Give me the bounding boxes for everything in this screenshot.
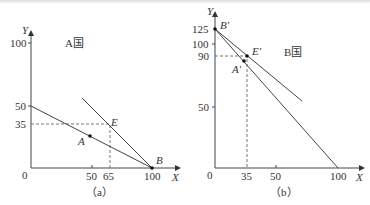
y-axis-label-a: Y	[22, 24, 30, 36]
point-Ap	[242, 59, 246, 63]
tick-label-y100-a: 100	[10, 37, 27, 49]
x-axis-label-b: X	[355, 171, 364, 183]
tick-label-x100-b: 100	[330, 170, 347, 182]
tick-label-x100-a: 100	[144, 170, 161, 182]
caption-b: （b）	[270, 186, 298, 198]
chart-a: Y X 100 50 35 0 50 65 100 A E B A国 （a）	[10, 24, 180, 198]
ppf-line-a	[31, 106, 152, 168]
x-axis-label-a: X	[171, 171, 180, 183]
caption-a: （a）	[86, 186, 113, 198]
ppf-line-b	[215, 29, 338, 168]
tick-label-x35-b: 35	[241, 170, 253, 182]
tick-label-y90-b: 90	[198, 50, 210, 62]
country-label-b: B国	[284, 46, 302, 58]
point-label-Ap: A'	[231, 63, 242, 75]
point-label-Bp: B'	[220, 19, 230, 31]
guide-E-a	[31, 124, 110, 168]
point-label-E: E	[110, 116, 118, 128]
figure: Y X 100 50 35 0 50 65 100 A E B A国 （a） Y…	[0, 0, 370, 205]
point-Bp	[213, 27, 217, 31]
point-Ep	[245, 54, 249, 58]
y-axis-label-b: Y	[207, 5, 215, 17]
country-label-a: A国	[65, 37, 84, 49]
point-label-B: B	[156, 154, 163, 166]
tick-label-y50-b: 50	[198, 101, 210, 113]
trade-line-b	[215, 29, 302, 101]
tick-label-x50-a: 50	[86, 170, 98, 182]
tick-label-x65-a: 65	[103, 170, 115, 182]
tick-label-x0-b: 0	[207, 169, 213, 181]
tick-label-y50-a: 50	[15, 100, 27, 112]
tick-label-y125-b: 125	[192, 23, 209, 35]
trade-line-a	[82, 98, 152, 168]
point-B	[150, 166, 154, 170]
point-A	[88, 134, 92, 138]
tick-label-y100-b: 100	[192, 38, 209, 50]
tick-label-y35-a: 35	[15, 118, 27, 130]
tick-label-x0-a: 0	[22, 169, 28, 181]
tick-label-x50-b: 50	[270, 170, 282, 182]
point-label-A: A	[77, 135, 85, 147]
point-label-Ep: E'	[251, 45, 262, 57]
guide-E-b	[215, 56, 247, 168]
chart-b: Y X 125 100 90 50 0 35 50 100 B' E' A' B…	[192, 5, 364, 198]
